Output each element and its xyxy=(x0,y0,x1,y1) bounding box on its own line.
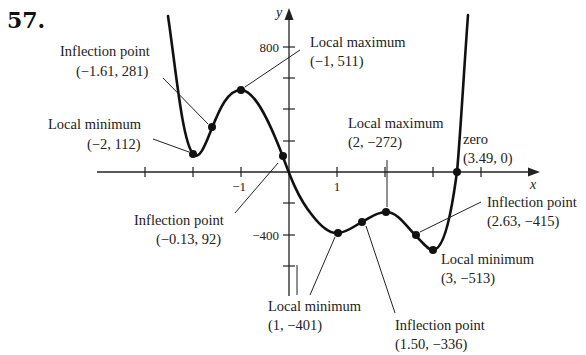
point-local-min-1 xyxy=(334,229,342,237)
annotation-local-min-3-title: Local minimum xyxy=(441,251,535,267)
point-local-max-2 xyxy=(382,208,390,216)
annotation-local-min-neg2-title: Local minimum xyxy=(48,116,142,132)
y-tick-label-800: 800 xyxy=(260,40,280,55)
annotation-local-max-neg1-title: Local maximum xyxy=(310,34,406,50)
x-axis-arrow-icon xyxy=(528,168,540,177)
annotation-zero-title: zero xyxy=(463,131,488,147)
annotation-local-min-1-title: Local minimum xyxy=(268,298,362,314)
annotation-zero-coords: (3.49, 0) xyxy=(463,150,513,167)
annotation-local-max-2-title: Local maximum xyxy=(348,115,444,131)
point-local-max-neg1 xyxy=(237,86,245,94)
annotation-inflection-neg1.61-title: Inflection point xyxy=(60,43,150,59)
annotation-local-min-neg2-coords: (−2, 112) xyxy=(87,136,141,153)
y-axis-label: y xyxy=(274,5,283,20)
point-inflection-neg0.13 xyxy=(279,152,287,160)
point-inflection-2.63 xyxy=(412,231,420,239)
annotations: Inflection point (−1.61, 281) Local mini… xyxy=(48,34,577,353)
annotation-inflection-2.63-title: Inflection point xyxy=(487,194,577,210)
y-tick-label-neg400: −400 xyxy=(252,228,279,243)
point-zero-3.49 xyxy=(453,168,461,176)
annotation-inflection-2.63-coords: (2.63, −415) xyxy=(487,213,559,230)
x-tick-label-neg1: −1 xyxy=(232,179,246,194)
point-inflection-1.50 xyxy=(358,218,366,226)
annotation-inflection-neg0.13-coords: (−0.13, 92) xyxy=(156,231,221,248)
annotation-inflection-1.50-title: Inflection point xyxy=(395,317,485,333)
annotation-inflection-neg1.61-coords: (−1.61, 281) xyxy=(76,63,148,80)
leader-lines xyxy=(153,50,481,313)
annotation-inflection-neg0.13-title: Inflection point xyxy=(134,212,224,228)
x-axis-label: x xyxy=(529,177,537,192)
point-local-min-3 xyxy=(429,246,437,254)
x-tick-label-1: 1 xyxy=(334,179,341,194)
annotation-local-max-neg1-coords: (−1, 511) xyxy=(310,53,364,70)
problem-number: 57. xyxy=(7,7,45,33)
point-local-min-neg2 xyxy=(189,150,197,158)
function-graph: 57. y x 800 −400 −1 xyxy=(0,0,586,355)
annotation-inflection-1.50-coords: (1.50, −336) xyxy=(395,336,467,353)
annotation-local-min-1-coords: (1, −401) xyxy=(268,317,322,334)
y-axis-arrow-icon xyxy=(285,8,294,20)
annotation-local-max-2-coords: (2, −272) xyxy=(348,134,402,151)
point-inflection-neg1.61 xyxy=(208,123,216,131)
annotation-local-min-3-coords: (3, −513) xyxy=(441,270,495,287)
